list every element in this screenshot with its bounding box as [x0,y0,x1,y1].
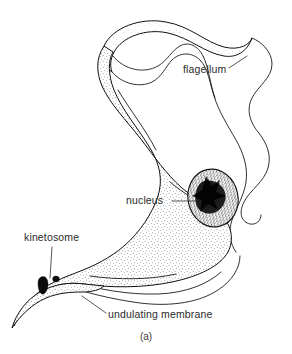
label-kinetosome-text: kinetosome [24,231,79,243]
figure-caption: (a) [140,331,152,342]
figure-root: flagellum nucleus kinetosome undulating … [0,0,292,354]
label-flagellum-text: flagellum [183,63,226,75]
figure-background [0,0,292,354]
trypanosome-illustration: flagellum nucleus kinetosome undulating … [0,0,292,354]
label-nucleus-text: nucleus [126,194,163,206]
label-undulating-membrane-text: undulating membrane [108,308,212,320]
